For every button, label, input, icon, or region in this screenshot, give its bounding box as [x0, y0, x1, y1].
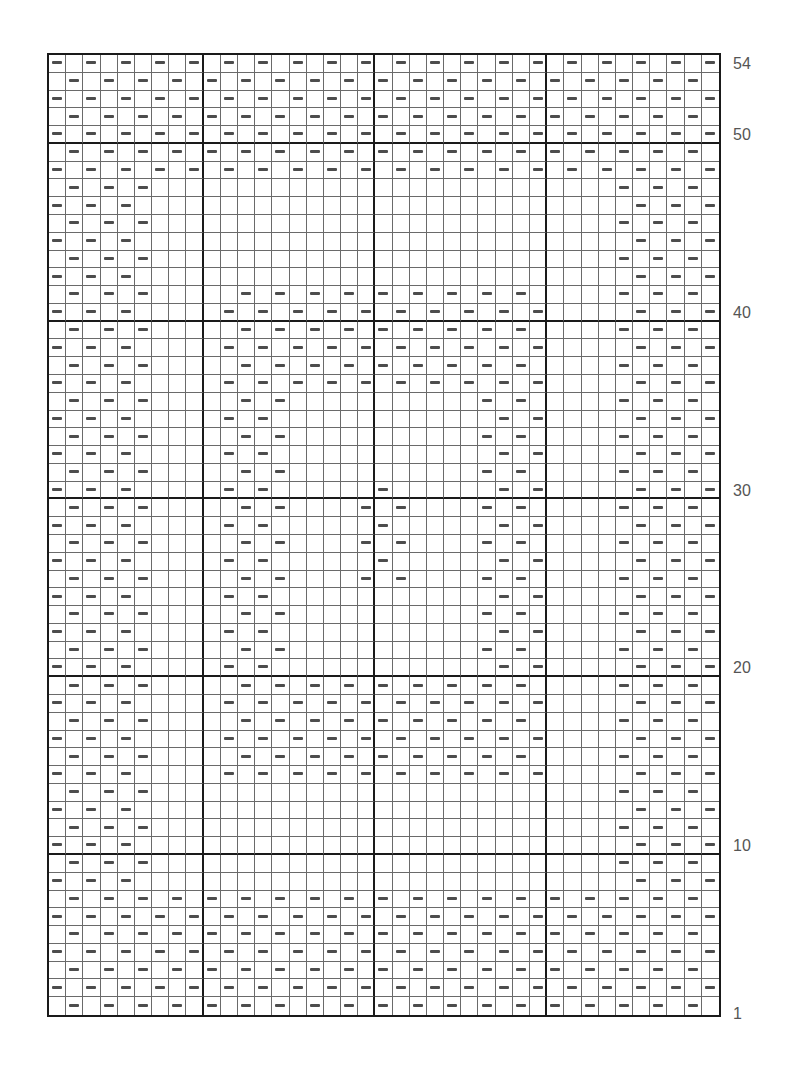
chart-cell [238, 179, 255, 197]
chart-cell [358, 233, 375, 251]
chart-cell [66, 731, 83, 749]
purl-dash-icon [705, 97, 715, 100]
chart-cell [272, 944, 289, 962]
chart-cell [358, 91, 375, 109]
chart-cell [118, 55, 135, 73]
chart-cell [290, 162, 307, 180]
chart-cell [135, 979, 152, 997]
chart-cell [427, 819, 444, 837]
chart-cell [478, 819, 495, 837]
chart-cell [633, 482, 650, 500]
chart-cell [324, 108, 341, 126]
purl-dash-icon [705, 808, 715, 811]
chart-cell [444, 837, 461, 855]
chart-cell [324, 908, 341, 926]
chart-cell [685, 233, 702, 251]
purl-dash-icon [567, 950, 577, 953]
purl-dash-icon [138, 186, 148, 189]
chart-cell [375, 926, 392, 944]
chart-cell [582, 571, 599, 589]
purl-dash-icon [567, 97, 577, 100]
chart-cell [290, 553, 307, 571]
chart-cell [702, 215, 719, 233]
chart-cell [650, 571, 667, 589]
chart-cell [478, 304, 495, 322]
chart-cell [324, 944, 341, 962]
chart-cell [324, 304, 341, 322]
chart-cell [582, 677, 599, 695]
chart-cell [633, 997, 650, 1015]
chart-cell [478, 482, 495, 500]
purl-dash-icon [447, 150, 457, 153]
chart-cell [83, 233, 100, 251]
chart-cell [238, 962, 255, 980]
purl-dash-icon [482, 79, 492, 82]
chart-cell [685, 677, 702, 695]
purl-dash-icon [705, 665, 715, 668]
chart-cell [204, 144, 221, 162]
purl-dash-icon [69, 221, 79, 224]
purl-dash-icon [378, 755, 388, 758]
chart-cell [186, 126, 203, 144]
chart-cell [152, 162, 169, 180]
chart-cell [238, 535, 255, 553]
chart-cell [49, 873, 66, 891]
chart-cell [685, 819, 702, 837]
purl-dash-icon [688, 328, 698, 331]
purl-dash-icon [121, 879, 131, 882]
purl-dash-icon [585, 968, 595, 971]
purl-dash-icon [636, 417, 646, 420]
chart-cell [616, 91, 633, 109]
chart-cell [599, 891, 616, 909]
chart-cell [582, 268, 599, 286]
chart-cell [461, 162, 478, 180]
chart-cell [496, 357, 513, 375]
purl-dash-icon [430, 61, 440, 64]
chart-cell [204, 517, 221, 535]
purl-dash-icon [705, 168, 715, 171]
purl-dash-icon [688, 364, 698, 367]
chart-cell [152, 233, 169, 251]
chart-cell [599, 944, 616, 962]
chart-cell [238, 375, 255, 393]
chart-cell [564, 997, 581, 1015]
purl-dash-icon [516, 470, 526, 473]
chart-cell [496, 802, 513, 820]
chart-cell [255, 944, 272, 962]
chart-cell [650, 553, 667, 571]
chart-cell [702, 731, 719, 749]
chart-cell [427, 268, 444, 286]
chart-cell [667, 588, 684, 606]
chart-cell [650, 357, 667, 375]
chart-cell [530, 464, 547, 482]
chart-cell [564, 944, 581, 962]
chart-cell [496, 784, 513, 802]
chart-cell [152, 766, 169, 784]
chart-cell [186, 926, 203, 944]
chart-cell [582, 855, 599, 873]
chart-cell [530, 624, 547, 642]
chart-cell [341, 393, 358, 411]
chart-cell [650, 713, 667, 731]
chart-cell [461, 819, 478, 837]
chart-cell [582, 126, 599, 144]
chart-cell [410, 606, 427, 624]
chart-cell [375, 482, 392, 500]
purl-dash-icon [104, 790, 114, 793]
chart-cell [427, 642, 444, 660]
chart-cell [272, 73, 289, 91]
purl-dash-icon [464, 97, 474, 100]
chart-cell [547, 926, 564, 944]
purl-dash-icon [653, 648, 663, 651]
chart-cell [324, 606, 341, 624]
chart-cell [49, 357, 66, 375]
chart-cell [702, 55, 719, 73]
chart-cell [616, 126, 633, 144]
chart-cell [255, 571, 272, 589]
purl-dash-icon [533, 559, 543, 562]
chart-cell [444, 571, 461, 589]
chart-cell [582, 357, 599, 375]
row-label-1: 1 [733, 1005, 742, 1023]
chart-cell [547, 91, 564, 109]
purl-dash-icon [327, 701, 337, 704]
